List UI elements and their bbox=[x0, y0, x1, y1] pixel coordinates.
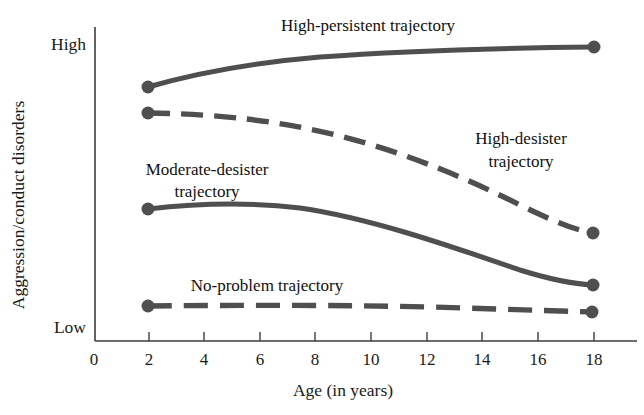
x-tick-label-16: 16 bbox=[530, 350, 547, 369]
x-tick-label-10: 10 bbox=[363, 350, 380, 369]
label-moderate-desister-trajectory-line2: trajectory bbox=[174, 182, 240, 201]
series-moderate-desister-end-point bbox=[587, 279, 600, 292]
series-moderate-desister-line bbox=[148, 204, 593, 285]
x-tick-label-0: 0 bbox=[90, 350, 99, 369]
label-high-desister-trajectory-line2: trajectory bbox=[488, 152, 554, 171]
series-high-desister-start-point bbox=[142, 107, 155, 120]
x-tick-label-12: 12 bbox=[419, 350, 436, 369]
series-high-persistent bbox=[142, 41, 601, 94]
series-no-problem-start-point bbox=[142, 300, 155, 313]
label-high-persistent-trajectory: High-persistent trajectory bbox=[281, 16, 456, 35]
series-high-persistent-end-point bbox=[588, 41, 601, 54]
series-high-desister-end-point bbox=[587, 227, 600, 240]
x-tick-label-14: 14 bbox=[474, 350, 492, 369]
y-tick-label-low: Low bbox=[54, 317, 86, 337]
x-axis-tick-labels: 0 2 4 6 8 10 12 14 16 18 bbox=[90, 350, 603, 369]
series-no-problem bbox=[142, 300, 599, 319]
label-moderate-desister-trajectory-line1: Moderate-desister bbox=[146, 160, 269, 179]
series-no-problem-end-point bbox=[586, 306, 599, 319]
x-tick-label-8: 8 bbox=[311, 350, 320, 369]
series-no-problem-line bbox=[148, 305, 592, 312]
x-tick-label-2: 2 bbox=[145, 350, 154, 369]
x-tick-label-4: 4 bbox=[200, 350, 209, 369]
series-high-persistent-start-point bbox=[142, 81, 155, 94]
y-tick-label-high: High bbox=[51, 34, 86, 54]
x-axis-ticks bbox=[149, 332, 594, 341]
series-high-persistent-line bbox=[148, 47, 594, 87]
trajectory-line-chart: 0 2 4 6 8 10 12 14 16 18 High Low Aggres… bbox=[0, 0, 644, 415]
x-axis-title: Age (in years) bbox=[293, 380, 393, 400]
y-axis-title: Aggression/conduct disorders bbox=[8, 101, 28, 310]
label-no-problem-trajectory: No-problem trajectory bbox=[191, 276, 344, 295]
label-high-desister-trajectory-line1: High-desister bbox=[475, 129, 567, 148]
x-tick-label-6: 6 bbox=[256, 350, 265, 369]
x-tick-label-18: 18 bbox=[586, 350, 603, 369]
series-moderate-desister-start-point bbox=[142, 203, 155, 216]
